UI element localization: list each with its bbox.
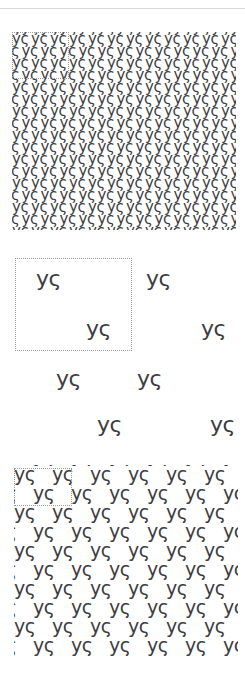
pattern-glyph: yς xyxy=(97,414,122,436)
pattern-glyph: yς xyxy=(221,224,236,230)
pattern-glyph: yς xyxy=(50,224,67,230)
pattern-glyph: yς xyxy=(86,318,111,340)
dense-pattern-swatch[interactable]: yςyςyςyςyςyςyςyςyςyςyςyςyςyςyςyςyςyςyςyς… xyxy=(12,32,236,230)
pattern-glyph: yς xyxy=(36,268,61,290)
sparse-pattern-swatch[interactable]: yςyςyςyςyςyςyςyς xyxy=(14,256,238,446)
medium-pattern-swatch[interactable]: yςyςyςyςyςyςyςyςyςyςyςyςyςyςyςyςyςyςyςyς… xyxy=(14,465,238,660)
pattern-glyph: yς xyxy=(14,655,36,660)
pattern-glyph: yς xyxy=(126,224,143,230)
pattern-glyph: yς xyxy=(202,224,219,230)
pattern-glyph: yς xyxy=(210,414,235,436)
pattern-swatch-page: yςyςyςyςyςyςyςyςyςyςyςyςyςyςyςyςyςyςyςyς… xyxy=(0,0,245,680)
pattern-glyph: yς xyxy=(164,224,181,230)
pattern-glyph: yς xyxy=(204,655,226,660)
pattern-glyph: yς xyxy=(107,224,124,230)
pattern-glyph: yς xyxy=(12,224,29,230)
pattern-glyph: yς xyxy=(56,368,81,390)
pattern-glyph: yς xyxy=(183,224,200,230)
pattern-glyph: yς xyxy=(146,268,171,290)
pattern-glyph: yς xyxy=(128,655,150,660)
pattern-glyph: yς xyxy=(145,224,162,230)
pattern-glyph: yς xyxy=(69,224,86,230)
pattern-glyph: yς xyxy=(137,368,162,390)
top-divider-rule xyxy=(0,8,245,9)
pattern-glyph: yς xyxy=(52,655,74,660)
pattern-glyph: yς xyxy=(88,224,105,230)
pattern-glyph: yς xyxy=(166,655,188,660)
pattern-glyph: yς xyxy=(31,224,48,230)
pattern-glyph: yς xyxy=(90,655,112,660)
pattern-glyph: yς xyxy=(201,318,226,340)
